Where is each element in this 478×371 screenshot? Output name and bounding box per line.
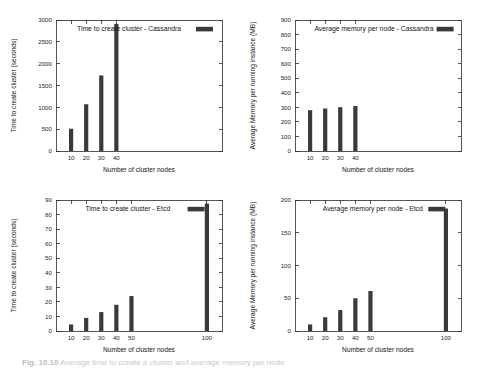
y-axis-title: Time to create cluster (seconds) — [10, 219, 18, 313]
x-tick-label: 20 — [83, 334, 90, 341]
chart-svg-cassandra-memory: 010020030040050060070080090010203040Numb… — [239, 0, 478, 178]
y-tick-label: 1500 — [38, 82, 52, 89]
y-tick-label: 0 — [49, 327, 53, 334]
x-axis-title: Number of cluster nodes — [342, 166, 415, 173]
chart-panel-cassandra-time: 05001000150020002500300010203040Number o… — [0, 0, 239, 178]
y-tick-label: 50 — [284, 294, 291, 301]
x-tick-label: 100 — [202, 334, 213, 341]
bar — [308, 110, 312, 151]
y-tick-label: 2500 — [38, 38, 52, 45]
legend-swatch — [428, 207, 445, 212]
chart-svg-etcd-memory: 0501001502001020304050100Number of clust… — [239, 178, 478, 358]
chart-panel-etcd-memory: 0501001502001020304050100Number of clust… — [239, 178, 478, 358]
bar — [323, 317, 327, 331]
x-tick-label: 30 — [337, 334, 344, 341]
legend-label: Average memory per node - Etcd — [323, 205, 423, 213]
y-tick-label: 80 — [45, 211, 52, 218]
legend-label: Time to create cluster - Etcd — [85, 205, 170, 212]
y-tick-label: 700 — [281, 45, 292, 52]
bar — [338, 107, 342, 151]
chart-svg-etcd-time: 01020304050607080901020304050100Number o… — [0, 178, 239, 358]
bar — [323, 108, 327, 151]
y-axis-title: Average Memory per running instance (MB) — [249, 202, 257, 330]
y-tick-label: 60 — [45, 240, 52, 247]
x-tick-label: 100 — [441, 334, 452, 341]
y-tick-label: 30 — [45, 284, 52, 291]
y-tick-label: 200 — [281, 196, 292, 203]
legend-swatch — [196, 27, 213, 32]
y-tick-label: 100 — [281, 262, 292, 269]
y-tick-label: 20 — [45, 298, 52, 305]
bar — [99, 75, 103, 151]
x-axis-title: Number of cluster nodes — [103, 166, 176, 173]
y-tick-label: 2000 — [38, 60, 52, 67]
y-tick-label: 90 — [45, 196, 52, 203]
bar — [308, 324, 312, 331]
y-tick-label: 0 — [288, 147, 292, 154]
y-tick-label: 800 — [281, 31, 292, 38]
figure-caption: Fig. 10.10 Average time to create a clus… — [22, 358, 462, 368]
x-tick-label: 10 — [307, 334, 314, 341]
y-tick-label: 300 — [281, 104, 292, 111]
x-tick-label: 10 — [307, 154, 314, 161]
x-tick-label: 20 — [322, 154, 329, 161]
bar — [114, 24, 118, 151]
y-tick-label: 40 — [45, 269, 52, 276]
x-tick-label: 30 — [337, 154, 344, 161]
y-axis-title: Time to create cluster (seconds) — [10, 39, 18, 133]
bar — [353, 106, 357, 151]
bar — [84, 104, 88, 151]
figure-caption-label: Fig. 10.10 — [22, 358, 58, 367]
y-tick-label: 400 — [281, 89, 292, 96]
chart-panel-etcd-time: 01020304050607080901020304050100Number o… — [0, 178, 239, 358]
chart-svg-cassandra-time: 05001000150020002500300010203040Number o… — [0, 0, 239, 178]
y-tick-label: 50 — [45, 254, 52, 261]
bar — [69, 129, 73, 151]
legend-label: Average memory per node - Cassandra — [314, 25, 433, 33]
bar — [338, 310, 342, 331]
bar — [205, 204, 209, 331]
legend-swatch — [437, 27, 454, 32]
bar — [114, 305, 118, 331]
x-tick-label: 40 — [113, 154, 120, 161]
legend-swatch — [188, 207, 205, 212]
y-tick-label: 600 — [281, 60, 292, 67]
chart-panel-cassandra-memory: 010020030040050060070080090010203040Numb… — [239, 0, 478, 178]
bar — [368, 291, 372, 331]
x-tick-label: 10 — [68, 154, 75, 161]
y-axis-title: Average Memory per running instance (MB) — [249, 22, 257, 150]
bar — [444, 209, 448, 331]
y-tick-label: 10 — [45, 313, 52, 320]
x-tick-label: 10 — [68, 334, 75, 341]
x-tick-label: 30 — [98, 154, 105, 161]
bar — [69, 324, 73, 331]
figure-caption-text: Average time to create a cluster and ave… — [60, 358, 284, 367]
y-tick-label: 1000 — [38, 104, 52, 111]
x-tick-label: 40 — [352, 334, 359, 341]
bar — [99, 312, 103, 331]
x-axis-title: Number of cluster nodes — [342, 346, 415, 353]
bar — [129, 296, 133, 331]
y-tick-label: 100 — [281, 133, 292, 140]
bar — [353, 298, 357, 331]
x-tick-label: 30 — [98, 334, 105, 341]
y-tick-label: 0 — [49, 147, 53, 154]
x-tick-label: 20 — [83, 154, 90, 161]
x-tick-label: 50 — [367, 334, 374, 341]
legend-label: Time to create cluster - Cassandra — [77, 25, 181, 32]
x-tick-label: 40 — [113, 334, 120, 341]
y-tick-label: 500 — [281, 74, 292, 81]
x-tick-label: 40 — [352, 154, 359, 161]
y-tick-label: 3000 — [38, 16, 52, 23]
x-axis-title: Number of cluster nodes — [103, 346, 176, 353]
bar — [84, 318, 88, 331]
y-tick-label: 500 — [42, 125, 53, 132]
y-tick-label: 900 — [281, 16, 292, 23]
y-tick-label: 150 — [281, 229, 292, 236]
y-tick-label: 200 — [281, 118, 292, 125]
x-tick-label: 50 — [128, 334, 135, 341]
y-tick-label: 70 — [45, 225, 52, 232]
figure-container: 05001000150020002500300010203040Number o… — [0, 0, 478, 371]
y-tick-label: 0 — [288, 327, 292, 334]
x-tick-label: 20 — [322, 334, 329, 341]
